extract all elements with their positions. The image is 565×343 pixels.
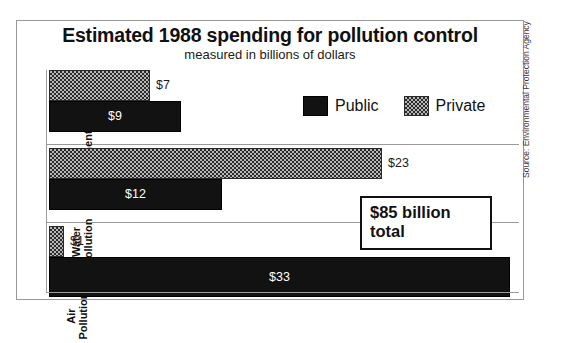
legend-swatch-public-icon xyxy=(303,96,328,116)
total-callout-text: $85 billion total xyxy=(370,203,482,241)
total-callout-box: $85 billion total xyxy=(360,196,492,250)
chart-title: Estimated 1988 spending for pollution co… xyxy=(16,24,524,47)
value-label-water-pollution-private: $23 xyxy=(388,148,409,179)
legend-item-public: Public xyxy=(303,96,379,116)
value-label-waste-management-private: $7 xyxy=(156,70,170,101)
value-label-waste-management-public: $9 xyxy=(49,101,181,132)
bar-water-pollution-private xyxy=(49,148,382,179)
chart-legend: Public Private xyxy=(303,96,485,116)
group-separator-waste xyxy=(46,144,519,145)
legend-label-private: Private xyxy=(436,97,486,115)
group-separator-air xyxy=(46,292,519,293)
chart-subtitle: measured in billions of dollars xyxy=(16,47,524,62)
bar-waste-management-private xyxy=(49,70,150,101)
value-label-air-pollution-private: $1 xyxy=(70,226,84,257)
bar-air-pollution-private xyxy=(49,226,64,257)
source-attribution: Source: Environmental Protection Agency xyxy=(521,8,531,178)
legend-label-public: Public xyxy=(335,97,379,115)
value-label-air-pollution-public: $33 xyxy=(49,257,510,297)
category-label-air-pollution: Air Pollution xyxy=(65,284,89,343)
legend-swatch-private-icon xyxy=(404,96,429,116)
y-axis-spine xyxy=(46,70,47,292)
legend-item-private: Private xyxy=(404,96,486,116)
